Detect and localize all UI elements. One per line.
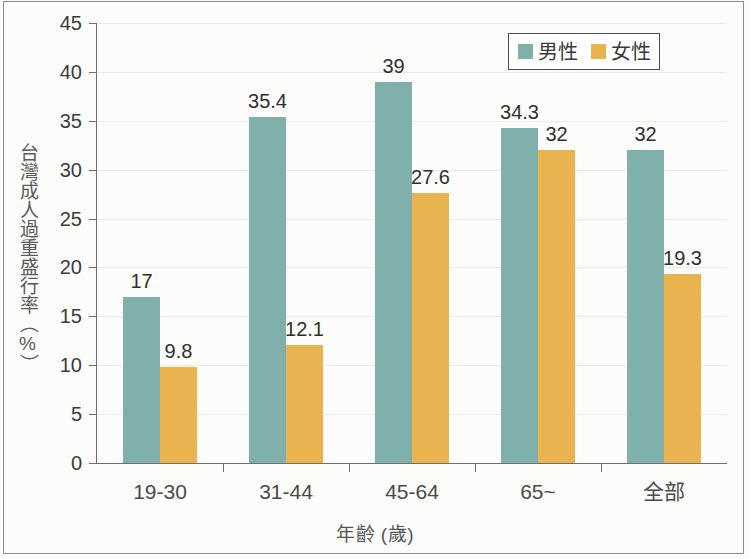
legend-swatch-male-icon <box>518 44 533 59</box>
y-tick-label-0: 0 <box>38 453 82 473</box>
legend-swatch-female-icon <box>591 44 606 59</box>
bar-女性-全部[interactable] <box>664 274 701 463</box>
legend: 男性 女性 <box>508 33 660 70</box>
bar-value-label-男性-19-30: 17 <box>112 271 172 291</box>
bar-value-label-男性-45-64: 39 <box>364 56 424 76</box>
y-tick-label-15: 15 <box>38 306 82 326</box>
gridline-45 <box>97 23 727 24</box>
x-tick-mark-3 <box>475 463 476 472</box>
y-tick-label-25: 25 <box>38 209 82 229</box>
x-category-label-19-30: 19-30 <box>97 481 223 502</box>
legend-item-female[interactable]: 女性 <box>591 42 651 62</box>
bar-男性-全部[interactable] <box>627 150 664 463</box>
x-category-label-全部: 全部 <box>601 481 727 502</box>
bar-男性-65~[interactable] <box>501 128 538 463</box>
bar-男性-31-44[interactable] <box>249 117 286 463</box>
bar-value-label-男性-31-44: 35.4 <box>238 91 298 111</box>
y-tick-label-10: 10 <box>38 355 82 375</box>
y-tick-label-35: 35 <box>38 111 82 131</box>
bar-女性-19-30[interactable] <box>160 367 197 463</box>
bar-男性-19-30[interactable] <box>123 297 160 463</box>
x-tick-mark-1 <box>223 463 224 472</box>
y-axis-ticks: 051015202530354045 <box>0 0 97 559</box>
y-tick-label-45: 45 <box>38 13 82 33</box>
x-axis-title: 年齡 (歲) <box>0 519 750 546</box>
bar-女性-31-44[interactable] <box>286 345 323 463</box>
x-category-label-45-64: 45-64 <box>349 481 475 502</box>
chart-page: 台灣成人過重盛行率（%） 051015202530354045 19-3031-… <box>0 0 750 559</box>
bar-女性-45-64[interactable] <box>412 193 449 463</box>
x-category-label-31-44: 31-44 <box>223 481 349 502</box>
x-tick-mark-2 <box>349 463 350 472</box>
gridline-35 <box>97 121 727 122</box>
bar-男性-45-64[interactable] <box>375 82 412 463</box>
bar-value-label-男性-65~: 34.3 <box>490 102 550 122</box>
gridline-0 <box>97 463 727 464</box>
bar-value-label-女性-全部: 19.3 <box>653 248 713 268</box>
legend-item-male[interactable]: 男性 <box>518 42 578 62</box>
bar-value-label-女性-65~: 32 <box>527 124 587 144</box>
bar-女性-65~[interactable] <box>538 150 575 463</box>
y-tick-label-40: 40 <box>38 62 82 82</box>
bar-value-label-女性-31-44: 12.1 <box>275 319 335 339</box>
plot-area <box>97 23 727 463</box>
bar-value-label-男性-全部: 32 <box>616 124 676 144</box>
y-tick-label-5: 5 <box>38 404 82 424</box>
bar-value-label-女性-19-30: 9.8 <box>149 341 209 361</box>
legend-label-female: 女性 <box>611 42 651 62</box>
y-tick-label-20: 20 <box>38 257 82 277</box>
x-tick-mark-4 <box>601 463 602 472</box>
y-tick-label-30: 30 <box>38 160 82 180</box>
x-category-label-65~: 65~ <box>475 481 601 502</box>
bar-value-label-女性-45-64: 27.6 <box>401 167 461 187</box>
legend-label-male: 男性 <box>538 42 578 62</box>
